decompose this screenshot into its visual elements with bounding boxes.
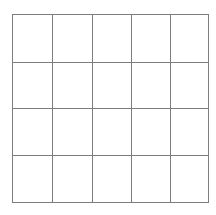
grid-cell[interactable]	[13, 156, 53, 203]
grid-cell[interactable]	[132, 63, 171, 109]
grid-cell[interactable]	[93, 156, 132, 203]
grid-row	[13, 156, 209, 203]
diagram-canvas	[0, 0, 216, 215]
grid-cell[interactable]	[53, 109, 93, 156]
grid-cell[interactable]	[93, 109, 132, 156]
grid-figure	[12, 14, 203, 202]
grid-row	[13, 15, 209, 63]
grid-cell[interactable]	[93, 15, 132, 63]
grid-cell[interactable]	[171, 109, 209, 156]
grid-cell[interactable]	[171, 156, 209, 203]
grid-cell[interactable]	[171, 63, 209, 109]
grid-cell[interactable]	[13, 109, 53, 156]
grid-row	[13, 63, 209, 109]
grid-cell[interactable]	[53, 63, 93, 109]
grid-cell[interactable]	[13, 63, 53, 109]
grid-cell[interactable]	[132, 156, 171, 203]
grid-cell[interactable]	[13, 15, 53, 63]
grid-cell[interactable]	[93, 63, 132, 109]
grid-cell[interactable]	[171, 15, 209, 63]
grid-cell[interactable]	[53, 156, 93, 203]
grid-body	[13, 15, 209, 203]
grid-row	[13, 109, 209, 156]
grid-cell[interactable]	[132, 15, 171, 63]
grid-table	[12, 14, 209, 203]
grid-cell[interactable]	[132, 109, 171, 156]
grid-cell[interactable]	[53, 15, 93, 63]
